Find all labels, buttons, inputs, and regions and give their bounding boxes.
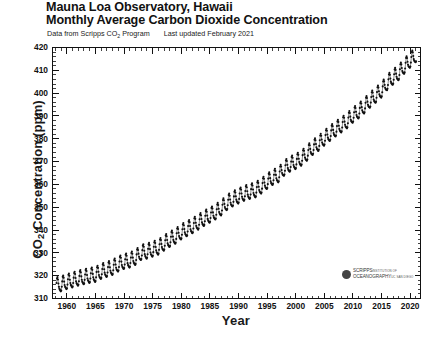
scripps-logo-mark-icon — [342, 270, 351, 279]
axis-ticks — [53, 48, 421, 299]
axes-frame — [53, 48, 421, 299]
scripps-logo-line-2: OCEANOGRAPHYUC SAN DIEGO — [353, 274, 413, 280]
scripps-logo-wordmark: SCRIPPSINSTITUTION OF OCEANOGRAPHYUC SAN… — [353, 268, 413, 281]
scripps-logo-line-2-small: UC SAN DIEGO — [391, 275, 413, 279]
keeling-curve-figure: Mauna Loa Observatory, Hawaii Monthly Av… — [0, 0, 436, 337]
scripps-oceanography-logo: SCRIPPSINSTITUTION OF OCEANOGRAPHYUC SAN… — [342, 267, 416, 281]
co2-data-series — [55, 49, 417, 292]
plot-area — [0, 0, 436, 337]
scripps-logo-line-1-small: INSTITUTION OF — [372, 269, 396, 273]
